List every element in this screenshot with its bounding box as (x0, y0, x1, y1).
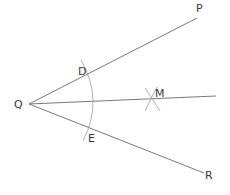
ray-qr (29, 104, 204, 173)
point-label-e: E (88, 132, 95, 145)
point-label-m: M (155, 87, 165, 100)
point-label-d: D (78, 65, 86, 78)
point-label-p: P (196, 2, 203, 15)
point-label-r: R (205, 169, 213, 182)
ray-qp (29, 18, 197, 104)
angle-bisector-diagram: Q P R D E M (0, 0, 230, 195)
vertex-label-q: Q (14, 98, 23, 111)
bisector-qm (29, 96, 216, 104)
